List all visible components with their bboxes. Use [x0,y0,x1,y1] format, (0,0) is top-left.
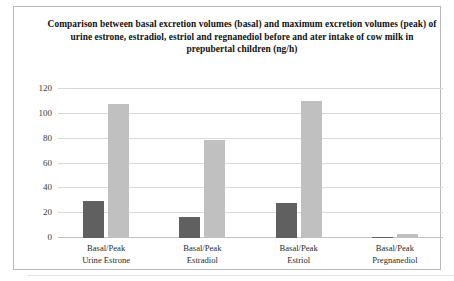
x-axis-category-label-line-2: Estradiol [154,255,250,267]
bar-group [58,89,154,238]
chart-title: Comparison between basal excretion volum… [46,18,438,56]
bar-peak [204,140,225,238]
y-axis-tick-label: 40 [43,182,52,192]
bar-peak [397,234,418,238]
bar-peak [108,104,129,238]
x-axis-category-label-line-2: Pregnanediol [347,255,443,267]
bar-basal [179,217,200,238]
y-axis-tick-label: 100 [39,108,53,118]
x-axis-category-label-line-2: Estriol [251,255,347,267]
x-axis-category-label: Basal/PeakEstradiol [154,243,250,266]
y-axis-tick-label: 20 [43,207,52,217]
x-axis-category-label-line-1: Basal/Peak [58,243,154,255]
x-axis-category-label: Basal/PeakPregnanediol [347,243,443,266]
x-axis-category-label-line-1: Basal/Peak [154,243,250,255]
bar-peak [301,101,322,238]
x-axis-category-label: Basal/PeakEstriol [251,243,347,266]
x-axis-category-label: Basal/PeakUrine Estrone [58,243,154,266]
bar-basal [276,203,297,238]
bar-group [154,89,250,238]
chart-title-line-1: Comparison between basal excretion volum… [48,19,363,29]
x-axis-category-label-line-1: Basal/Peak [347,243,443,255]
scan-artifact-line [28,275,454,276]
y-axis-tick-label: 60 [43,158,52,168]
bar-group [347,89,443,238]
bar-group [251,89,347,238]
plot-area: 020406080100120 [58,89,443,238]
x-axis-labels: Basal/PeakUrine EstroneBasal/PeakEstradi… [58,243,443,277]
y-axis-tick-label: 80 [43,133,52,143]
chart-frame: Comparison between basal excretion volum… [13,6,441,270]
x-axis-category-label-line-1: Basal/Peak [251,243,347,255]
chart-figure: Comparison between basal excretion volum… [0,0,454,281]
bar-basal [83,201,104,238]
y-axis-tick-label: 120 [39,83,53,93]
bar-basal [372,237,393,238]
x-axis-category-label-line-2: Urine Estrone [58,255,154,267]
y-axis-tick-label: 0 [48,232,53,242]
